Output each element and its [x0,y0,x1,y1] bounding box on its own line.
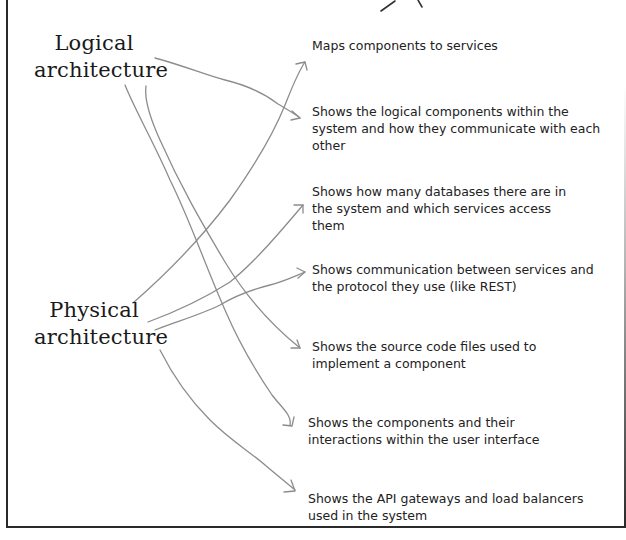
description-databases: Shows how many databases there are in th… [312,183,572,234]
top-decoration-icon [381,0,422,11]
physical-label-line1: Physical [34,297,154,324]
physical-architecture-label: Physical architecture [34,297,154,351]
arrow-logical-to-logical-components [155,58,300,120]
description-logical-components: Shows the logical components within the … [312,103,602,154]
description-ui-components: Shows the components and their interacti… [308,414,578,448]
logical-label-line2: architecture [34,57,154,84]
arrow-physical-to-api-gateways [160,350,295,492]
arrow-logical-to-source-code [146,86,300,348]
logical-architecture-label: Logical architecture [34,30,154,84]
description-source-code: Shows the source code files used to impl… [312,338,602,372]
arrow-physical-to-maps-components [133,62,307,303]
description-api-gateways: Shows the API gateways and load balancer… [308,490,598,524]
physical-label-line2: architecture [34,324,154,351]
description-maps-components: Maps components to services [312,37,612,54]
arrow-logical-to-ui-components [125,85,294,426]
description-service-communication: Shows communication between services and… [312,261,602,295]
logical-label-line1: Logical [34,30,154,57]
